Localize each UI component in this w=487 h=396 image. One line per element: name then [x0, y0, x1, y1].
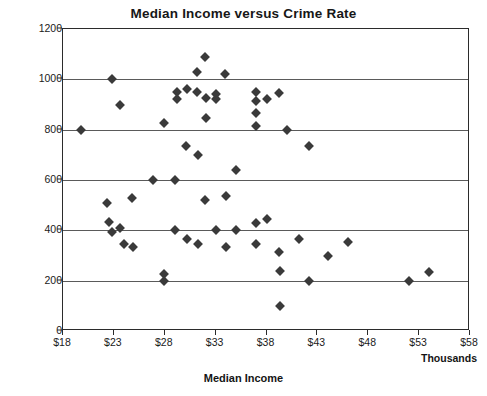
y-axis-tick-label: 0	[16, 324, 62, 336]
data-point	[115, 100, 125, 110]
gridline	[63, 230, 468, 231]
data-point	[211, 225, 221, 235]
data-point	[294, 234, 304, 244]
x-axis-tick-label: $18	[53, 336, 71, 348]
x-axis-tick-label: $53	[409, 336, 427, 348]
data-point	[282, 125, 292, 135]
x-axis-tick-mark	[266, 330, 267, 335]
data-point	[200, 52, 210, 62]
y-axis-tick-label: 800	[16, 123, 62, 135]
data-point	[251, 218, 261, 228]
gridline	[63, 130, 468, 131]
data-point	[274, 88, 284, 98]
x-axis-tick-mark	[469, 330, 470, 335]
data-point	[102, 198, 112, 208]
x-axis-tick-label: $48	[358, 336, 376, 348]
data-point	[262, 95, 272, 105]
data-point	[159, 118, 169, 128]
data-point	[170, 225, 180, 235]
y-axis-tick-mark	[57, 229, 62, 230]
x-axis-tick-label: $58	[460, 336, 478, 348]
x-axis-unit-note: Thousands	[421, 352, 477, 364]
data-point	[343, 237, 353, 247]
x-axis-tick-label: $33	[206, 336, 224, 348]
x-axis-tick-mark	[316, 330, 317, 335]
gridline	[63, 79, 468, 80]
data-point	[231, 165, 241, 175]
y-axis-tick-label: 1200	[16, 22, 62, 34]
data-point	[221, 242, 231, 252]
x-axis-tick-mark	[367, 330, 368, 335]
chart-title: Median Income versus Crime Rate	[0, 6, 487, 21]
data-point	[119, 239, 129, 249]
x-axis-tick-mark	[62, 330, 63, 335]
y-axis-tick-mark	[57, 78, 62, 79]
x-axis-tick-mark	[215, 330, 216, 335]
data-point	[251, 108, 261, 118]
data-point	[304, 276, 314, 286]
data-point	[181, 141, 191, 151]
data-point	[172, 95, 182, 105]
data-point	[251, 96, 261, 106]
data-point	[251, 87, 261, 97]
data-point	[251, 239, 261, 249]
y-axis-tick-label: 400	[16, 223, 62, 235]
gridline	[63, 180, 468, 181]
data-point	[193, 239, 203, 249]
data-point	[304, 141, 314, 151]
plot-area	[62, 28, 469, 330]
data-point	[104, 217, 114, 227]
data-point	[424, 267, 434, 277]
data-point	[148, 175, 158, 185]
data-point	[127, 193, 137, 203]
data-point	[221, 191, 231, 201]
data-point	[193, 150, 203, 160]
data-point	[200, 195, 210, 205]
x-axis-tick-mark	[113, 330, 114, 335]
y-axis-tick-label: 200	[16, 274, 62, 286]
data-point	[220, 69, 230, 79]
y-axis-tick-label: 600	[16, 173, 62, 185]
x-axis-tick-mark	[418, 330, 419, 335]
x-axis-tick-label: $38	[257, 336, 275, 348]
data-point	[192, 87, 202, 97]
data-point	[211, 95, 221, 105]
x-axis-tick-label: $28	[155, 336, 173, 348]
data-point	[202, 113, 212, 123]
data-point	[192, 67, 202, 77]
data-point	[76, 125, 86, 135]
data-point	[182, 84, 192, 94]
data-point	[262, 214, 272, 224]
scatter-chart: Median Income versus Crime Rate 02004006…	[0, 0, 487, 396]
data-point	[323, 251, 333, 261]
y-axis-tick-mark	[57, 128, 62, 129]
y-axis-tick-label: 1000	[16, 72, 62, 84]
data-point	[170, 175, 180, 185]
y-axis-tick-mark	[57, 28, 62, 29]
data-point	[107, 74, 117, 84]
x-axis-tick-label: $23	[104, 336, 122, 348]
data-point	[231, 225, 241, 235]
x-axis-title: Median Income	[0, 372, 487, 384]
data-point	[159, 276, 169, 286]
data-point	[275, 301, 285, 311]
data-point	[182, 234, 192, 244]
x-axis-tick-mark	[164, 330, 165, 335]
data-point	[128, 242, 138, 252]
y-axis-tick-mark	[57, 279, 62, 280]
data-point	[404, 276, 414, 286]
x-axis-tick-label: $43	[308, 336, 326, 348]
data-point	[274, 247, 284, 257]
y-axis-tick-mark	[57, 179, 62, 180]
data-point	[275, 266, 285, 276]
